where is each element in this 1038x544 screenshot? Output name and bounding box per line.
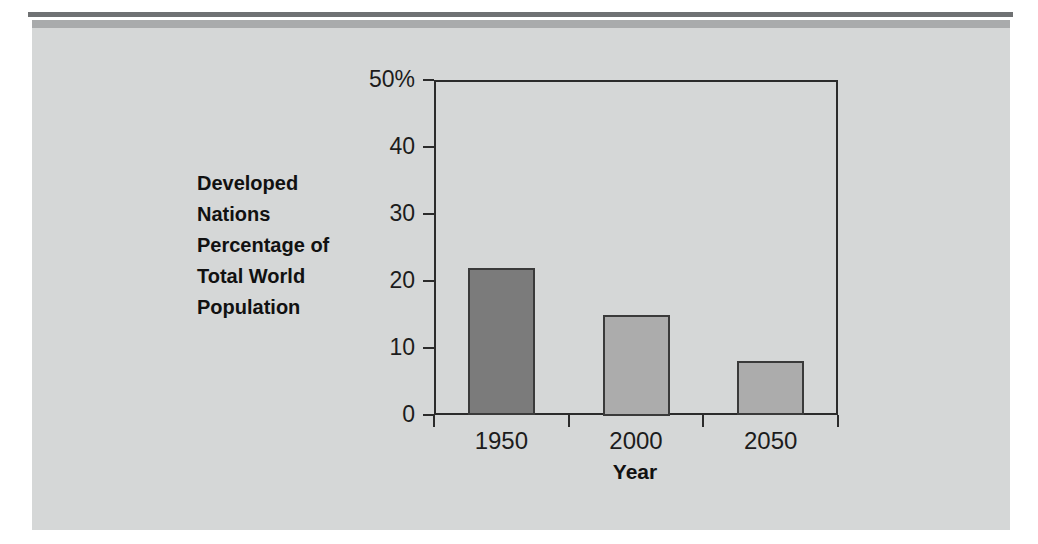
y-axis-tick-mark: [423, 213, 434, 215]
x-axis-tick-mark: [702, 415, 704, 427]
x-axis-title: Year: [515, 460, 755, 484]
bar-1950: [468, 268, 535, 415]
y-axis-tick-label: 10: [305, 336, 415, 359]
y-axis-tick-label: 20: [305, 269, 415, 292]
y-axis-tick-mark: [423, 79, 434, 81]
y-axis-title-line-3: Percentage of: [197, 230, 377, 261]
bar-2000: [603, 315, 670, 416]
x-axis-tick-label: 1950: [431, 429, 571, 453]
x-axis-tick-mark: [568, 415, 570, 427]
y-axis-title: Developed Nations Percentage of Total Wo…: [197, 168, 377, 323]
y-axis-tick-label: 0: [305, 403, 415, 426]
bar-2050: [737, 361, 804, 415]
x-axis-tick-label: 2000: [566, 429, 706, 453]
y-axis-tick-label: 30: [305, 202, 415, 225]
x-axis-tick-label: 2050: [701, 429, 841, 453]
y-axis-title-line-1: Developed: [197, 168, 377, 199]
bar-chart-figure: Developed Nations Percentage of Total Wo…: [0, 0, 1038, 544]
y-axis-tick-label: 50%: [305, 68, 415, 91]
y-axis-tick-mark: [423, 146, 434, 148]
y-axis-tick-mark: [423, 280, 434, 282]
x-axis-tick-mark: [837, 415, 839, 427]
x-axis-tick-mark: [433, 415, 435, 427]
y-axis-tick-label: 40: [305, 135, 415, 158]
y-axis-title-line-5: Population: [197, 292, 377, 323]
y-axis-tick-mark: [423, 347, 434, 349]
